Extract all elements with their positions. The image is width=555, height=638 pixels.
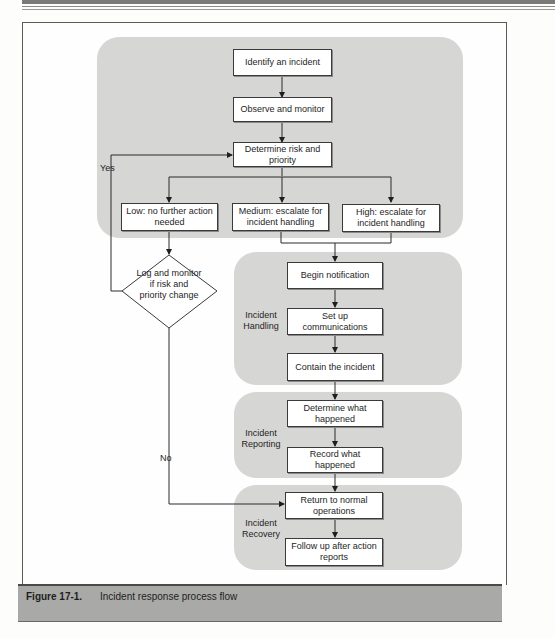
recovery-label: Incident Recovery: [238, 518, 284, 540]
begin-notification-box: Begin notification: [287, 262, 383, 289]
low-priority-box: Low: no further action needed: [121, 203, 218, 231]
medium-priority-box: Medium: escalate for incident handling: [232, 203, 329, 231]
decision-diamond-label: Log and monitor if risk and priority cha…: [135, 268, 203, 301]
determine-what-happened-box: Determine what happened: [287, 400, 383, 427]
observe-monitor-box: Observe and monitor: [233, 97, 332, 122]
yes-label: Yes: [100, 163, 115, 174]
setup-communications-box: Set up communications: [287, 308, 383, 335]
follow-up-reports-box: Follow up after action reports: [285, 538, 383, 566]
figure-number: Figure 17-1.: [26, 591, 82, 602]
reporting-label: Incident Reporting: [238, 428, 284, 450]
return-normal-operations-box: Return to normal operations: [285, 492, 383, 519]
identify-incident-box: Identify an incident: [233, 49, 332, 76]
handling-label: Incident Handling: [240, 310, 282, 332]
record-what-happened-box: Record what happened: [287, 447, 383, 473]
figure-caption: Figure 17-1. Incident response process f…: [18, 584, 502, 622]
contain-incident-box: Contain the incident: [287, 353, 383, 381]
no-label: No: [160, 453, 172, 464]
determine-risk-box: Determine risk and priority: [233, 142, 332, 167]
high-priority-box: High: escalate for incident handling: [342, 204, 440, 232]
figure-title: Incident response process flow: [100, 591, 237, 602]
